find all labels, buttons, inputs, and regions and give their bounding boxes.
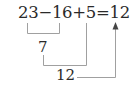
- intermediate-result-12: 12: [56, 68, 75, 83]
- result-arrow: [77, 28, 116, 78]
- bracket-23-minus-16: [28, 23, 60, 34]
- arrowhead-up-icon: [113, 22, 119, 30]
- intermediate-result-7: 7: [38, 40, 48, 55]
- bracket-7-plus-5: [44, 23, 87, 66]
